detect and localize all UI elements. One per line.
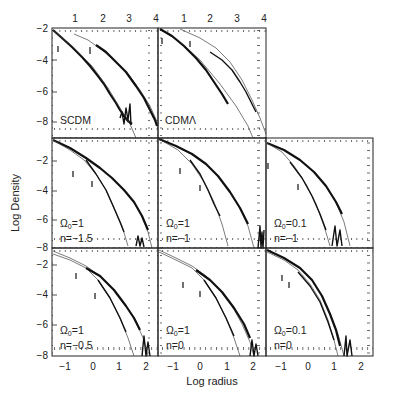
- tick-label: −4: [37, 55, 49, 66]
- n-label: n=−1: [166, 232, 190, 244]
- tick-label: 0: [197, 361, 203, 372]
- tick-label: 2: [250, 361, 256, 372]
- tick-label: 4: [261, 13, 267, 24]
- omega-value: =1: [72, 324, 84, 336]
- y-tick-labels: −2 −4 −6 −8 −2 −4 −6 −8 −2 −4 −6 −8: [37, 23, 49, 361]
- tick-label: 1: [181, 13, 187, 24]
- n-label: n=−0.5: [60, 339, 93, 351]
- cdml-inner-data: [160, 29, 228, 104]
- chart-figure: Log Density Log radius 1 2 3 4 1 2 3 4 −…: [0, 0, 393, 402]
- omega-symbol: Ω: [166, 217, 174, 229]
- tick-label: 1: [72, 13, 78, 24]
- scdm-inner-data: [53, 30, 132, 124]
- tick-label: −4: [37, 185, 49, 196]
- panel-omega1-n-1.5: Ω0=1 n=−1.5: [53, 140, 152, 248]
- scdm-outer-fit: [74, 34, 158, 124]
- y-axis-title: Log Density: [9, 173, 21, 232]
- tick-label: 1: [331, 361, 337, 372]
- omega-symbol: Ω: [60, 217, 68, 229]
- omega-value: =0.1: [286, 324, 307, 336]
- tick-label: −8: [37, 116, 49, 127]
- omega-value: =1: [178, 217, 190, 229]
- tick-label: 1: [224, 361, 230, 372]
- n-label: n=0: [166, 339, 184, 351]
- omega-symbol: Ω: [166, 324, 174, 336]
- inner-data: [190, 160, 220, 216]
- tick-label: 1: [116, 361, 122, 372]
- outer-data: [267, 143, 342, 214]
- omega-value: =1: [178, 324, 190, 336]
- omega-symbol: Ω: [274, 217, 282, 229]
- tick-label: −2: [37, 155, 49, 166]
- panel-omega1-n-1: Ω0=1 n=−1: [159, 139, 264, 248]
- cdml-outer-data: [210, 52, 256, 112]
- svg-text:Ω0=1: Ω0=1: [60, 324, 84, 337]
- svg-text:Ω0=0.1: Ω0=0.1: [274, 324, 307, 337]
- tick-label: −1: [167, 361, 179, 372]
- tick-label: −8: [37, 350, 49, 361]
- outer-fit: [267, 143, 350, 246]
- tick-label: 2: [358, 361, 364, 372]
- tick-label: 3: [234, 13, 240, 24]
- tick-label: 0: [90, 361, 96, 372]
- tick-label: −2: [37, 23, 49, 34]
- tick-label: 4: [153, 13, 159, 24]
- panel-omega0.1-n0: Ω0=0.1 n=0: [267, 250, 352, 356]
- n-label: n=0: [274, 339, 292, 351]
- tick-label: 2: [207, 13, 213, 24]
- omega-value: =1: [72, 217, 84, 229]
- n-label: n=−1: [274, 232, 298, 244]
- x-axis-title: Log radius: [186, 375, 238, 387]
- tick-label: −2: [37, 259, 49, 270]
- bottom-x-tick-labels: −1 0 1 2 −1 0 1 2 −1 0 1 2: [59, 361, 364, 372]
- inner-fit: [53, 140, 128, 246]
- tick-label: 2: [143, 361, 149, 372]
- svg-text:Ω0=1: Ω0=1: [166, 217, 190, 230]
- tick-label: −8: [37, 242, 49, 253]
- tick-label: −6: [37, 86, 49, 97]
- panel-omega0.1-n-1: Ω0=0.1 n=−1: [267, 143, 350, 246]
- tick-label: 0: [305, 361, 311, 372]
- tick-label: −1: [275, 361, 287, 372]
- top-x-tick-labels: 1 2 3 4 1 2 3 4: [72, 13, 267, 24]
- outer-data: [86, 268, 140, 330]
- omega-value: =0.1: [286, 217, 307, 229]
- tick-label: −6: [37, 214, 49, 225]
- svg-text:Ω0=1: Ω0=1: [166, 324, 190, 337]
- tick-label: 3: [126, 13, 132, 24]
- tick-label: −6: [37, 319, 49, 330]
- omega-symbol: Ω: [60, 324, 68, 336]
- panel-omega1-n-0.5: Ω0=1 n=−0.5: [53, 251, 150, 356]
- tick-label: −4: [37, 289, 49, 300]
- tick-label: −1: [59, 361, 71, 372]
- panel-omega1-n0: Ω0=1 n=0: [159, 250, 258, 356]
- omega-symbol: Ω: [274, 324, 282, 336]
- panel-scdm: SCDM: [53, 30, 158, 138]
- svg-text:Ω0=1: Ω0=1: [60, 217, 84, 230]
- panel-cdm-lambda: CDMΛ: [160, 29, 266, 138]
- n-label: n=−1.5: [60, 232, 93, 244]
- tick-label: 2: [100, 13, 106, 24]
- panel-label-scdm: SCDM: [60, 114, 91, 126]
- panel-label-cdml: CDMΛ: [165, 114, 196, 126]
- svg-text:Ω0=0.1: Ω0=0.1: [274, 217, 307, 230]
